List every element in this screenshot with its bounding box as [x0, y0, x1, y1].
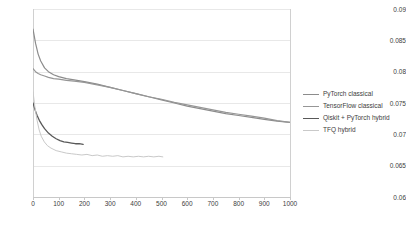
legend-color-swatch	[303, 130, 319, 131]
legend-item[interactable]: Qiskit + PyTorch hybrid	[303, 112, 403, 124]
x-axis-tick-label: 700	[201, 200, 225, 208]
legend-label: PyTorch classical	[323, 90, 373, 98]
x-axis-tick	[84, 197, 85, 200]
series-line	[33, 69, 290, 123]
legend-item[interactable]: TFQ hybrid	[303, 124, 403, 136]
x-axis-tick-label: 0	[21, 200, 45, 208]
legend-label: TFQ hybrid	[323, 126, 356, 134]
legend-item[interactable]: PyTorch classical	[303, 88, 403, 100]
x-axis-tick-label: 400	[124, 200, 148, 208]
x-axis-tick	[162, 197, 163, 200]
chart-legend: PyTorch classicalTensorFlow classicalQis…	[303, 88, 403, 136]
plot-right-edge	[290, 9, 291, 197]
x-axis-tick-label: 100	[47, 200, 71, 208]
line-chart: 0.060.0650.070.0750.080.0850.09 01002003…	[0, 0, 406, 234]
x-axis-tick	[136, 197, 137, 200]
x-axis-tick	[290, 197, 291, 200]
x-axis-tick	[33, 197, 34, 200]
x-axis-tick-label: 200	[72, 200, 96, 208]
x-axis-tick	[187, 197, 188, 200]
series-line	[33, 92, 163, 157]
legend-color-swatch	[303, 94, 319, 95]
legend-color-swatch	[303, 106, 319, 107]
x-axis-tick	[110, 197, 111, 200]
y-axis-tick-label: 0.08	[377, 68, 406, 75]
series-line	[33, 29, 290, 122]
x-axis-tick	[213, 197, 214, 200]
x-axis-tick	[264, 197, 265, 200]
x-axis-tick-label: 300	[98, 200, 122, 208]
legend-item[interactable]: TensorFlow classical	[303, 100, 403, 112]
x-axis-tick-label: 800	[227, 200, 251, 208]
legend-label: TensorFlow classical	[323, 102, 383, 110]
x-axis-tick-label: 900	[252, 200, 276, 208]
y-axis-tick-label: 0.06	[377, 194, 406, 201]
y-axis-tick-label: 0.065	[377, 162, 406, 169]
legend-color-swatch	[303, 118, 319, 119]
legend-label: Qiskit + PyTorch hybrid	[323, 114, 390, 122]
x-axis-tick	[59, 197, 60, 200]
x-axis-tick-label: 1000	[278, 200, 302, 208]
x-axis-tick-label: 600	[175, 200, 199, 208]
series-lines	[33, 9, 290, 197]
y-axis-tick-label: 0.09	[377, 6, 406, 13]
x-axis-tick-label: 500	[150, 200, 174, 208]
y-axis-tick-label: 0.085	[377, 37, 406, 44]
x-axis-tick	[239, 197, 240, 200]
series-line	[33, 103, 83, 144]
